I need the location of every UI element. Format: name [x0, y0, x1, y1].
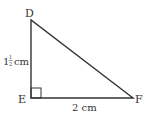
svg-text:2: 2 [9, 61, 12, 67]
side-label-ef: 2 cm [72, 102, 97, 113]
vertex-label-d: D [25, 7, 34, 20]
vertex-label-e: E [18, 93, 26, 106]
vertex-label-f: F [135, 93, 143, 106]
triangle-def [31, 20, 133, 98]
side-label-de: 1 1 2 cm [3, 54, 30, 67]
svg-text:1: 1 [9, 54, 12, 60]
svg-text:cm: cm [14, 56, 30, 67]
right-angle-marker [31, 88, 41, 98]
triangle-diagram: D E F 1 1 2 cm 2 cm [0, 0, 145, 118]
